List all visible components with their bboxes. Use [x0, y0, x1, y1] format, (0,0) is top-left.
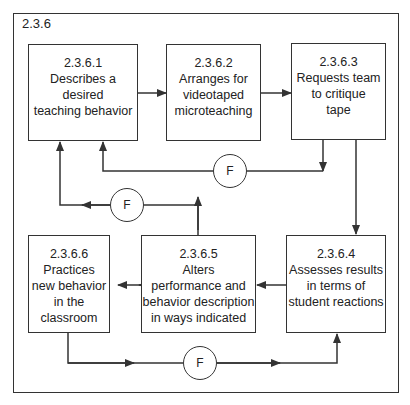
process-box-2-3-6-5: 2.3.6.5 Alters performance and behavior … [141, 235, 256, 333]
box-text-line: Requests team [296, 70, 380, 86]
box-text-line: new behavior [32, 278, 106, 294]
process-box-2-3-6-2: 2.3.6.2 Arranges for videotaped microtea… [166, 44, 261, 141]
box-number: 2.3.6.6 [50, 246, 88, 262]
process-box-2-3-6-1: 2.3.6.1 Describes a desired teaching beh… [28, 44, 138, 141]
box-text-line: Describes a [50, 71, 116, 87]
feedback-node-top: F [213, 154, 247, 188]
box-text-line: in terms of [307, 278, 365, 294]
box-text-line: in the [54, 294, 85, 310]
edge-5-to-f2 [144, 205, 198, 235]
box-text-line: videotaped [183, 87, 244, 103]
box-text-line: Alters [183, 262, 215, 278]
feedback-node-bottom: F [183, 346, 217, 380]
box-number: 2.3.6.1 [64, 55, 102, 71]
box-number: 2.3.6.4 [317, 246, 355, 262]
box-text-line: teaching behavior [34, 103, 133, 119]
box-text-line: to critique [311, 86, 365, 102]
process-box-2-3-6-3: 2.3.6.3 Requests team to critique tape [291, 43, 386, 140]
box-text-line: microteaching [175, 103, 253, 119]
edge-f3-to-4 [217, 334, 337, 363]
box-text-line: Arranges for [179, 71, 248, 87]
box-text-line: classroom [41, 310, 98, 326]
edge-f1-to-1 [103, 142, 213, 171]
box-number: 2.3.6.3 [319, 54, 357, 70]
box-text-line: desired [63, 87, 104, 103]
feedback-node-middle: F [110, 188, 144, 222]
box-text-line: student reactions [288, 294, 383, 310]
box-text-line: behavior description [143, 294, 255, 310]
box-text-line: performance and [151, 278, 246, 294]
box-text-line: tape [326, 102, 350, 118]
process-box-2-3-6-4: 2.3.6.4 Assesses results in terms of stu… [286, 235, 386, 333]
process-box-2-3-6-6: 2.3.6.6 Practices new behavior in the cl… [28, 235, 110, 333]
box-number: 2.3.6.5 [179, 246, 217, 262]
box-number: 2.3.6.2 [194, 55, 232, 71]
edge-6-to-f3 [68, 332, 183, 363]
box-text-line: Practices [43, 262, 94, 278]
box-text-line: in ways indicated [151, 310, 246, 326]
box-text-line: Assesses results [289, 262, 383, 278]
